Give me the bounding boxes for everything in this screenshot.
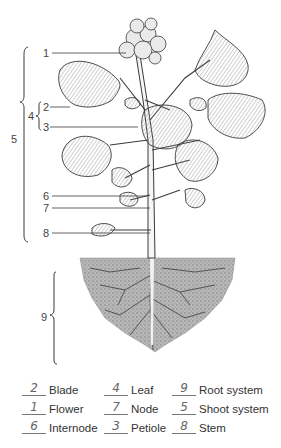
key-label: Leaf (131, 384, 153, 396)
stem (136, 55, 155, 258)
root-system-bracket (50, 272, 57, 364)
answer-blank[interactable]: 8 (172, 419, 196, 434)
callout-1: 1 (43, 48, 49, 59)
flower (119, 18, 166, 64)
leaves (59, 30, 265, 236)
answer-blank[interactable]: 4 (104, 381, 128, 396)
callout-3: 3 (43, 122, 49, 133)
leaf-bracket (36, 102, 41, 130)
key-label: Root system (199, 384, 263, 396)
callout-7: 7 (43, 203, 49, 214)
brackets (20, 47, 57, 364)
key-label: Internode (49, 422, 98, 434)
answer-blank[interactable]: 9 (172, 381, 196, 396)
answer-blank[interactable]: 7 (104, 400, 128, 415)
key-label: Node (131, 403, 159, 415)
shoot-system-bracket (20, 47, 28, 242)
callout-2: 2 (43, 102, 49, 113)
key-label: Blade (49, 384, 78, 396)
callout-6: 6 (43, 191, 49, 202)
answer-blank[interactable]: 1 (22, 400, 46, 415)
answer-blank[interactable]: 5 (172, 400, 196, 415)
answer-key: 2 Blade 4 Leaf 9 Root system 1 Flower 7 … (0, 384, 281, 448)
key-label: Stem (199, 422, 226, 434)
callout-8: 8 (43, 228, 49, 239)
callout-5: 5 (11, 134, 17, 145)
key-label: Shoot system (199, 403, 269, 415)
answer-blank[interactable]: 3 (104, 419, 128, 434)
callout-9: 9 (41, 312, 47, 323)
root-system (80, 258, 235, 352)
answer-blank[interactable]: 6 (22, 419, 46, 434)
plant-diagram: 1 2 3 4 5 6 7 8 9 (0, 0, 281, 380)
answer-blank[interactable]: 2 (22, 381, 46, 396)
key-label: Flower (49, 403, 84, 415)
callout-4: 4 (28, 111, 34, 122)
key-label: Petiole (131, 422, 166, 434)
